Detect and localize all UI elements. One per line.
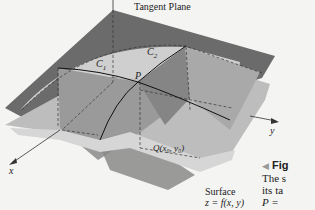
curve-c2-label: C2 (147, 46, 157, 62)
y-axis-label: y (270, 125, 274, 136)
figure-tangent-plane: Tangent Plane C1 C2 P Q(x₀, y₀) x y Surf… (0, 0, 315, 210)
x-axis-label: x (9, 165, 13, 176)
curve-c1-label: C1 (96, 58, 106, 74)
point-p-label: P (135, 70, 141, 81)
y-axis-arrow-icon (271, 118, 279, 124)
caption-marker-icon: ◀ (262, 161, 269, 171)
tangent-plane-label: Tangent Plane (134, 1, 191, 12)
surface-label: Surface (205, 186, 236, 197)
caption-line-3: P = (262, 196, 279, 208)
caption-line-2: its ta (262, 184, 283, 196)
point-q-label: Q(x₀, y₀) (153, 143, 184, 154)
surface-equation: z = f(x, y) (205, 197, 244, 208)
caption-heading: ◀ Fig (262, 159, 288, 172)
x-axis-arrow-icon (9, 158, 17, 165)
caption-line-1: The s (262, 172, 286, 184)
